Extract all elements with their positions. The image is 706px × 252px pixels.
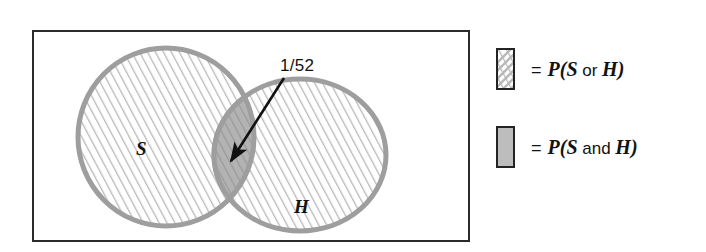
- legend-item-p-s-and-h: =P(S and H): [496, 126, 638, 168]
- venn-diagram-panel: S H 1/52: [32, 30, 470, 242]
- legend-connector-or: or: [578, 61, 603, 80]
- solid-gray-swatch-icon: [496, 126, 515, 168]
- legend-item-p-s-or-h: =P(S or H): [496, 48, 624, 90]
- legend-equals-sign-2: =: [531, 138, 548, 158]
- figure-canvas: S H 1/52: [0, 0, 706, 252]
- legend-set-s: S: [566, 58, 577, 80]
- set-label-s: S: [136, 138, 147, 160]
- venn-diagram-graphic: [32, 30, 470, 242]
- legend-p-symbol: P(: [548, 58, 567, 80]
- hatched-swatch-icon: [496, 48, 515, 90]
- legend-close-paren-2: ): [631, 136, 638, 158]
- legend-set-h: H: [602, 58, 618, 80]
- intersection-callout-label: 1/52: [280, 56, 314, 76]
- legend-set-s-2: S: [566, 136, 577, 158]
- set-label-h: H: [294, 196, 309, 218]
- legend-equals-sign: =: [531, 60, 548, 80]
- legend-set-h-2: H: [615, 136, 631, 158]
- legend-label-p-s-or-h: =P(S or H): [531, 58, 624, 81]
- legend-p-symbol-2: P(: [548, 136, 567, 158]
- legend-label-p-s-and-h: =P(S and H): [531, 136, 638, 159]
- legend-connector-and: and: [578, 139, 616, 158]
- legend-close-paren: ): [618, 58, 625, 80]
